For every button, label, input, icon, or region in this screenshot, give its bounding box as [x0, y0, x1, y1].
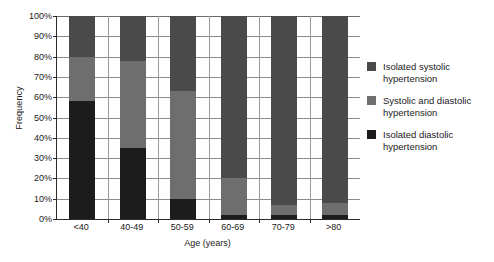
stacked-bar-chart: Frequency 0%10%20%30%40%50%60%70%80%90%1…: [0, 0, 494, 262]
bar-60-69: [221, 16, 247, 219]
legend-label: Isolated diastolic hypertension: [383, 129, 491, 152]
bar-50-59: [170, 16, 196, 219]
y-tick-label: 60%: [12, 93, 52, 102]
y-tick-label: 90%: [12, 32, 52, 41]
bar-40: [69, 16, 95, 219]
bar-segment: [322, 16, 348, 203]
y-tick-label: 100%: [12, 12, 52, 21]
y-tick-mark: [53, 97, 57, 98]
x-tick-label: 40-49: [106, 222, 158, 233]
bar-segment: [120, 61, 146, 148]
bar-70-79: [271, 16, 297, 219]
bar-group: [57, 16, 360, 219]
y-tick-mark: [53, 178, 57, 179]
legend-label: Systolic and diastolic hypertension: [383, 95, 491, 118]
x-tick-label: 50-59: [156, 222, 208, 233]
bar-40-49: [120, 16, 146, 219]
y-tick-label: 10%: [12, 194, 52, 203]
bar-segment: [69, 16, 95, 57]
y-tick-mark: [53, 138, 57, 139]
bar-segment: [120, 148, 146, 219]
y-tick-label: 0%: [12, 215, 52, 224]
y-tick-mark: [53, 199, 57, 200]
bar-segment: [322, 203, 348, 215]
x-tick-label: 70-79: [257, 222, 309, 233]
y-tick-label: 80%: [12, 52, 52, 61]
bar-segment: [271, 215, 297, 219]
x-axis-title: Age (years): [56, 238, 359, 248]
bar-segment: [170, 199, 196, 219]
bar-segment: [170, 91, 196, 199]
bar-segment: [221, 215, 247, 219]
x-axis-tick-labels: <4040-4950-5960-6970-79>80: [56, 222, 359, 236]
legend-item[interactable]: Systolic and diastolic hypertension: [367, 95, 491, 118]
legend-swatch-icon: [367, 96, 376, 105]
x-tick-label: <40: [55, 222, 107, 233]
y-tick-mark: [53, 118, 57, 119]
plot-area: [56, 16, 360, 220]
bar-segment: [69, 101, 95, 219]
legend-label: Isolated systolic hypertension: [383, 61, 491, 84]
y-tick-label: 70%: [12, 72, 52, 81]
y-tick-label: 50%: [12, 113, 52, 122]
y-tick-mark: [53, 57, 57, 58]
legend-item[interactable]: Isolated systolic hypertension: [367, 61, 491, 84]
bar-segment: [322, 215, 348, 219]
bar-segment: [221, 16, 247, 178]
x-tick-label: 60-69: [207, 222, 259, 233]
y-tick-mark: [53, 36, 57, 37]
bar-segment: [120, 16, 146, 61]
bar-segment: [170, 16, 196, 91]
bar-80: [322, 16, 348, 219]
x-tick-label: >80: [308, 222, 360, 233]
y-axis-tick-labels: 0%10%20%30%40%50%60%70%80%90%100%: [12, 16, 52, 219]
legend-item[interactable]: Isolated diastolic hypertension: [367, 129, 491, 152]
bar-segment: [271, 16, 297, 205]
y-tick-label: 30%: [12, 154, 52, 163]
bar-segment: [271, 205, 297, 215]
y-tick-mark: [53, 16, 57, 17]
legend-swatch-icon: [367, 62, 376, 71]
y-tick-mark: [53, 158, 57, 159]
y-tick-mark: [53, 77, 57, 78]
y-tick-mark: [53, 219, 57, 220]
legend-swatch-icon: [367, 130, 376, 139]
chart-legend: Isolated systolic hypertensionSystolic a…: [367, 61, 491, 163]
bar-segment: [221, 178, 247, 215]
y-tick-label: 40%: [12, 133, 52, 142]
bar-segment: [69, 57, 95, 102]
y-tick-label: 20%: [12, 174, 52, 183]
